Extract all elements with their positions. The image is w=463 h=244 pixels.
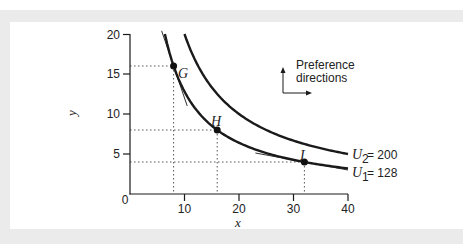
indifference-curve-chart: 20 15 10 5 0 10 20 30 40 x y G H I U 2 =… [0, 0, 463, 244]
x-axis-title: x [234, 215, 241, 230]
y-tick-label-15: 15 [107, 67, 121, 81]
pref-label-line1: Preference [296, 58, 355, 72]
x-tick-label-40: 40 [341, 202, 355, 216]
u1-label-value: = 128 [367, 166, 398, 180]
u2-label-value: = 200 [367, 148, 398, 162]
y-axis-title: y [64, 110, 79, 118]
y-tick-label-20: 20 [107, 28, 121, 42]
point-g-label: G [178, 66, 188, 81]
curve-label-u1: U 1 = 128 [352, 165, 398, 184]
pref-label-line2: directions [296, 71, 347, 85]
x-tick-label-20: 20 [232, 202, 246, 216]
arrow-right-icon [306, 91, 312, 96]
origin-label: 0 [122, 193, 129, 207]
x-tick-label-30: 30 [287, 202, 301, 216]
y-tick-label-10: 10 [107, 107, 121, 121]
point-h-label: H [210, 114, 222, 129]
y-tick-label-5: 5 [113, 147, 120, 161]
arrow-up-icon [281, 67, 286, 73]
x-tick-label-10: 10 [178, 202, 192, 216]
preference-directions: Preference directions [281, 58, 356, 96]
curve-label-u2: U 2 = 200 [352, 147, 398, 166]
indifference-curve-u2 [185, 34, 349, 154]
point-g-marker [170, 63, 177, 70]
